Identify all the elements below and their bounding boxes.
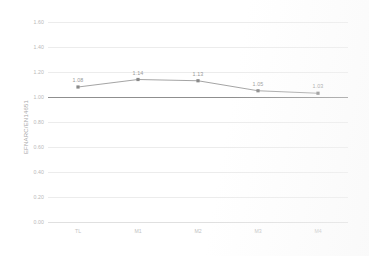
y-tick-label: 1.40: [34, 44, 45, 50]
series-line: [48, 22, 348, 222]
y-tick-label: 0.40: [34, 169, 45, 175]
data-point-marker: [76, 85, 79, 88]
y-axis-tick-labels: 1.601.401.201.000.800.600.400.200.00: [0, 22, 44, 222]
y-tick-label: 0.80: [34, 119, 45, 125]
data-point-marker: [316, 92, 319, 95]
data-point-label: 1.05: [253, 81, 264, 87]
plot-area: 1.081.141.131.051.03: [48, 22, 348, 222]
y-tick-label: 0.00: [34, 219, 45, 225]
y-tick-label: 1.60: [34, 19, 45, 25]
data-point-label: 1.14: [133, 70, 144, 76]
x-tick-label: M4: [314, 228, 321, 234]
x-axis-tick-labels: TLM1M2M3M4: [48, 228, 348, 242]
data-point-marker: [196, 79, 199, 82]
y-tick-label: 1.00: [34, 94, 45, 100]
line-chart-figure: EFNARC/EN14651 1.601.401.201.000.800.600…: [0, 0, 369, 256]
data-point-label: 1.13: [193, 71, 204, 77]
data-point-label: 1.08: [73, 77, 84, 83]
x-tick-label: M1: [134, 228, 141, 234]
y-tick-label: 0.20: [34, 194, 45, 200]
data-point-label: 1.03: [313, 83, 324, 89]
data-point-marker: [256, 89, 259, 92]
x-tick-label: TL: [75, 228, 81, 234]
gridline: [48, 222, 348, 223]
data-point-marker: [136, 78, 139, 81]
x-tick-label: M2: [194, 228, 201, 234]
y-tick-label: 0.60: [34, 144, 45, 150]
y-tick-label: 1.20: [34, 69, 45, 75]
x-tick-label: M3: [254, 228, 261, 234]
